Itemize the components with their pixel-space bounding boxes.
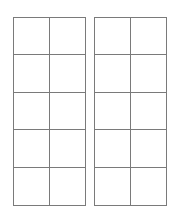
grid-cell bbox=[95, 130, 131, 167]
ten-frame-right bbox=[94, 17, 167, 206]
grid-cell bbox=[131, 93, 167, 130]
grid-cell bbox=[50, 93, 86, 130]
grid-cell bbox=[50, 168, 86, 205]
grid-cell bbox=[50, 130, 86, 167]
grid-cell bbox=[131, 168, 167, 205]
grid-cell bbox=[50, 18, 86, 55]
grid-cell bbox=[95, 93, 131, 130]
grid-cell bbox=[95, 18, 131, 55]
grid-cell bbox=[131, 18, 167, 55]
grid-cell bbox=[14, 18, 50, 55]
grid-cell bbox=[131, 55, 167, 92]
grid-cell bbox=[14, 55, 50, 92]
grid-cell bbox=[131, 130, 167, 167]
grid-cell bbox=[95, 55, 131, 92]
grid-cell bbox=[14, 93, 50, 130]
grid-cell bbox=[95, 168, 131, 205]
grid-cell bbox=[14, 168, 50, 205]
grid-cell bbox=[50, 55, 86, 92]
grid-cell bbox=[14, 130, 50, 167]
ten-frame-left bbox=[13, 17, 86, 206]
